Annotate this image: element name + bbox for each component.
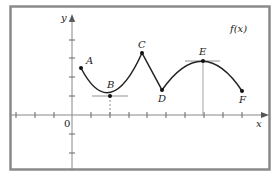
label-c: C: [138, 39, 146, 50]
label-a: A: [85, 55, 93, 66]
label-f: F: [238, 94, 247, 105]
point-d: [160, 88, 164, 92]
point-f: [240, 89, 244, 93]
label-b: B: [106, 79, 114, 90]
point-c: [140, 51, 144, 55]
x-axis-label: x: [256, 118, 262, 129]
label-d: D: [157, 93, 166, 104]
function-graph: A B C D E F f(x) y x 0: [0, 0, 276, 181]
point-e: [201, 59, 205, 63]
label-e: E: [198, 46, 207, 57]
point-a: [79, 66, 83, 70]
y-axis-label: y: [60, 12, 67, 23]
origin-label: 0: [64, 118, 70, 129]
function-label: f(x): [229, 23, 247, 34]
point-b: [108, 94, 112, 98]
